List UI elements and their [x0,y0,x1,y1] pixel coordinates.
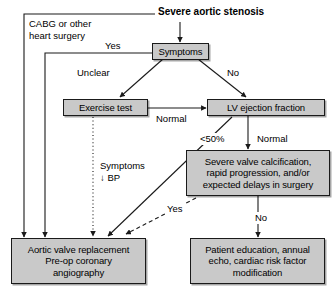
edge-label-normal-ef: Normal [256,133,289,145]
node-aortic-valve-replacement-label: Aortic valve replacement Pre-op coronary… [25,244,133,279]
edge-label-yes-calcification: Yes [166,203,184,215]
node-patient-education-label: Patient education, annual echo, cardiac … [202,244,313,279]
node-lv-ejection-fraction-label: LV ejection fraction [224,102,308,114]
edge-yes-to-avr [45,53,152,237]
edge-label-symptoms-low-bp: Symptoms ↓ BP [99,160,146,183]
annotation-cabg: CABG or other heart surgery [29,18,91,42]
edge-label-unclear: Unclear [76,67,111,79]
node-exercise-test[interactable]: Exercise test [63,99,148,116]
edge-symptoms-to-exercise [120,59,163,97]
node-severe-valve-calcification[interactable]: Severe valve calcification, rapid progre… [186,150,330,196]
chart-title: Severe aortic stenosis [158,6,264,18]
edge-label-yes-cabg: Yes [104,40,122,52]
edge-cabg-to-avr [24,14,155,237]
edge-label-no-symptoms: No [226,67,240,79]
node-patient-education[interactable]: Patient education, annual echo, cardiac … [190,238,325,284]
edge-label-no-calcification: No [254,212,268,224]
node-severe-valve-calcification-label: Severe valve calcification, rapid progre… [200,156,316,191]
node-lv-ejection-fraction[interactable]: LV ejection fraction [207,99,325,116]
node-aortic-valve-replacement[interactable]: Aortic valve replacement Pre-op coronary… [11,238,146,284]
edge-label-lt50: <50% [199,133,226,145]
node-symptoms[interactable]: Symptoms [152,43,209,60]
flowchart-canvas: Severe aortic stenosis CABG or other hea… [0,0,336,298]
edge-label-normal-exercise: Normal [155,113,188,125]
node-exercise-test-label: Exercise test [76,102,135,114]
node-symptoms-label: Symptoms [155,46,205,58]
edge-calcification-yes-to-avr [126,198,196,234]
